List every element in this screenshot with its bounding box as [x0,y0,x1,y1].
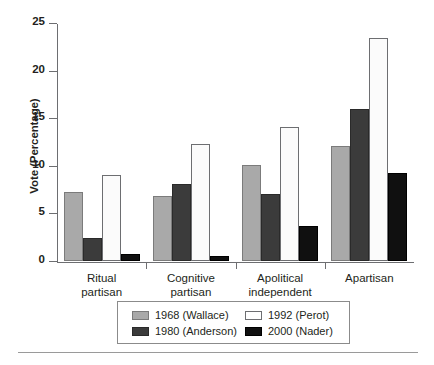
x-axis-group-label: Ritualpartisan [57,272,146,299]
bar [121,254,140,261]
bar [350,109,369,261]
y-tick-10: 10 [49,166,57,167]
x-axis-label-line: Apolitical [236,272,325,286]
x-axis-label-line: Apartisan [325,272,414,286]
y-tick-20: 20 [49,71,57,72]
legend: 1968 (Wallace)1980 (Anderson)1992 (Perot… [117,301,350,344]
bar [261,194,280,261]
legend-swatch [245,311,262,320]
plot-area: 0510152025 RitualpartisanCognitivepartis… [57,24,414,262]
bar-group [64,23,140,261]
y-axis-line [57,24,58,263]
y-tick-label-10: 10 [32,158,45,170]
bar [299,226,318,261]
bar [153,196,172,261]
y-tick-label-5: 5 [39,205,45,217]
y-tick-0: 0 [49,261,57,262]
bar [388,173,407,261]
y-axis-title: Vote (Percentage) [28,66,40,226]
bar-group [242,23,318,261]
legend-item: 1980 (Anderson) [132,325,237,337]
bar-group [153,23,229,261]
legend-label: 2000 (Nader) [268,325,333,337]
legend-item: 1968 (Wallace) [132,309,229,321]
legend-label: 1992 (Perot) [268,309,329,321]
y-tick-label-20: 20 [32,63,45,75]
bar [369,38,388,261]
y-tick-label-15: 15 [32,110,45,122]
x-axis-group-label: Apoliticalindependent [236,272,325,299]
figure: Vote (Percentage) 0510152025 Ritualparti… [0,0,434,365]
x-axis-label-line: independent [236,286,325,300]
legend-item: 2000 (Nader) [245,325,333,337]
x-tick [236,262,237,269]
y-tick-15: 15 [49,118,57,119]
bar [331,146,350,261]
bar [210,256,229,261]
y-tick-label-25: 25 [32,15,45,27]
bar [172,184,191,261]
x-axis-label-line: Ritual [57,272,146,286]
y-tick-label-0: 0 [39,253,45,265]
legend-label: 1968 (Wallace) [155,309,229,321]
legend-swatch [132,311,149,320]
x-axis-group-label: Cognitivepartisan [146,272,235,299]
legend-item: 1992 (Perot) [245,309,329,321]
x-axis-group-label: Apartisan [325,272,414,286]
bar-group [331,23,407,261]
x-axis-label-line: partisan [146,286,235,300]
bar [280,127,299,261]
legend-swatch [132,327,149,336]
bar [83,238,102,261]
x-tick [325,262,326,269]
legend-swatch [245,327,262,336]
bar [242,165,261,261]
x-axis-label-line: partisan [57,286,146,300]
bar [102,175,121,261]
bottom-rule [18,352,418,353]
y-tick-5: 5 [49,213,57,214]
y-tick-25: 25 [49,23,57,24]
x-tick [146,262,147,269]
bar [64,192,83,261]
bar [191,144,210,261]
legend-label: 1980 (Anderson) [155,325,237,337]
x-axis-label-line: Cognitive [146,272,235,286]
